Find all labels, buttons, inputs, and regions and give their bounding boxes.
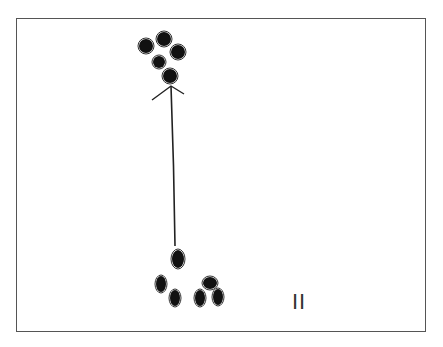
filled-dot xyxy=(139,39,153,53)
tally-mark-label: II xyxy=(292,289,306,315)
filled-dot xyxy=(163,69,177,83)
bottom-dot-cluster xyxy=(155,249,224,307)
filled-dot xyxy=(213,289,223,305)
filled-dot xyxy=(153,56,165,68)
top-dot-cluster xyxy=(138,31,186,84)
filled-dot xyxy=(203,277,217,289)
filled-dot xyxy=(171,45,185,59)
arrow-shaft xyxy=(171,86,175,246)
sketch-canvas xyxy=(0,0,443,347)
arrow-head-icon xyxy=(152,86,184,100)
filled-dot xyxy=(195,290,205,306)
filled-dot xyxy=(157,32,171,46)
filled-dot xyxy=(170,290,180,306)
filled-dot xyxy=(172,250,184,268)
filled-dot xyxy=(156,276,166,292)
arrow-up xyxy=(152,86,184,246)
